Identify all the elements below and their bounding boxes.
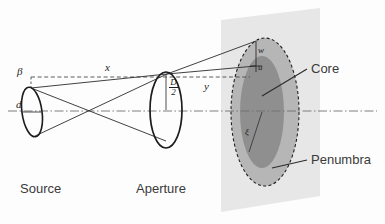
core-radius-symbol: ξ bbox=[245, 128, 249, 137]
optics-penumbra-diagram: β d x y D 2 w u ξ Source Aperture Core P… bbox=[0, 0, 385, 224]
penumbra-edge-symbol: w bbox=[258, 46, 264, 55]
source-label: Source bbox=[20, 182, 61, 195]
ray-source-top-to-aperture bbox=[31, 74, 167, 88]
penumbra-label: Penumbra bbox=[311, 153, 371, 166]
distance-y-label: y bbox=[204, 81, 209, 92]
source-diameter-symbol: d bbox=[16, 99, 22, 110]
aperture-radius-fraction: D 2 bbox=[168, 78, 179, 98]
aperture-radius-denominator: 2 bbox=[168, 88, 179, 97]
ray-source-bottom-to-aperture bbox=[33, 74, 167, 137]
core-edge-symbol: u bbox=[258, 63, 263, 72]
core-label: Core bbox=[311, 62, 339, 75]
aperture-label: Aperture bbox=[136, 182, 186, 195]
aperture-radius-numerator: D bbox=[168, 78, 179, 87]
distance-x-label: x bbox=[105, 62, 110, 73]
source-angle-symbol: β bbox=[17, 66, 22, 77]
ray-source-top-to-aperture-lower bbox=[31, 88, 166, 141]
